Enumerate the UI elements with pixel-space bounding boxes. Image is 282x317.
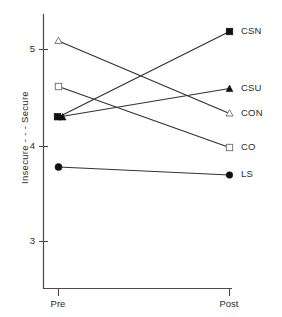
series-label-csn: CSN — [241, 25, 262, 36]
series-line-csn — [59, 32, 230, 118]
series-label-co: CO — [241, 141, 256, 152]
y-tick-label-5: 5 — [19, 43, 35, 54]
y-tick-label-3: 3 — [19, 235, 35, 246]
series-line-co — [59, 87, 230, 148]
y-axis-label: Insecure - - - Secure — [19, 58, 30, 218]
open-square-marker — [226, 144, 232, 150]
series-line-ls — [59, 167, 230, 175]
plot-area — [0, 0, 282, 317]
open-square-marker — [55, 83, 61, 89]
x-tick-label-pre: Pre — [38, 298, 78, 309]
series-group — [59, 32, 230, 176]
filled-circle-marker — [55, 164, 62, 171]
line-chart: 5 4 3 Pre Post Insecure - - - Secure CSN… — [0, 0, 282, 317]
filled-circle-marker — [226, 172, 233, 179]
series-label-con: CON — [241, 107, 263, 118]
x-tick-label-post: Post — [209, 298, 249, 309]
filled-square-marker — [226, 28, 233, 35]
open-triangle-marker — [55, 37, 62, 43]
series-label-ls: LS — [241, 168, 253, 179]
series-label-csu: CSU — [241, 82, 262, 93]
